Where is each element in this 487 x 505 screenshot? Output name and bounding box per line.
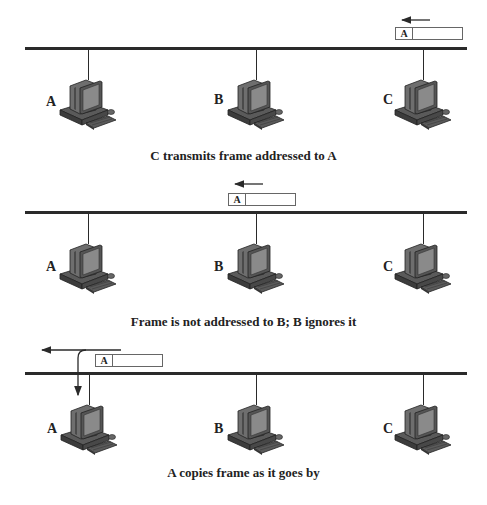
panel-2: A B C A Frame is not addressed to B; B i…	[0, 170, 487, 335]
caption: C transmits frame addressed to A	[0, 148, 487, 164]
direction-arrow-icon	[0, 0, 487, 170]
caption: Frame is not addressed to B; B ignores i…	[0, 314, 487, 330]
panel-3: A B C A A copies frame as it goes by	[0, 335, 487, 505]
direction-arrow-icon	[0, 170, 487, 335]
panel-1: A B C A C transmits frame addressed to A	[0, 0, 487, 170]
caption: A copies frame as it goes by	[0, 465, 487, 481]
